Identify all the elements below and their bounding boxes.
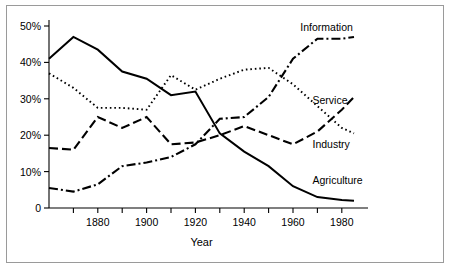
y-tick-label: 0 — [35, 202, 41, 214]
line-chart: 010%20%30%40%50%188019001920194019601980… — [7, 6, 445, 264]
x-tick-label: 1880 — [86, 216, 110, 228]
x-tick-label: 1940 — [233, 216, 257, 228]
y-tick-label: 30% — [20, 93, 41, 105]
y-tick-label: 20% — [20, 129, 41, 141]
series-line-service — [49, 97, 354, 150]
series-label-service: Service — [313, 94, 348, 106]
x-axis-title: Year — [190, 236, 213, 248]
y-tick-label: 50% — [20, 20, 41, 32]
chart-figure: 010%20%30%40%50%188019001920194019601980… — [6, 5, 444, 263]
series-label-industry: Industry — [313, 138, 351, 150]
series-line-information — [49, 37, 354, 192]
series-label-information: Information — [300, 21, 353, 33]
series-label-agriculture: Agriculture — [313, 174, 363, 186]
x-tick-label: 1900 — [135, 216, 159, 228]
y-tick-label: 10% — [20, 166, 41, 178]
y-tick-label: 40% — [20, 56, 41, 68]
x-tick-label: 1920 — [184, 216, 208, 228]
x-tick-label: 1980 — [330, 216, 354, 228]
x-tick-label: 1960 — [281, 216, 305, 228]
series-line-agriculture — [49, 37, 354, 201]
